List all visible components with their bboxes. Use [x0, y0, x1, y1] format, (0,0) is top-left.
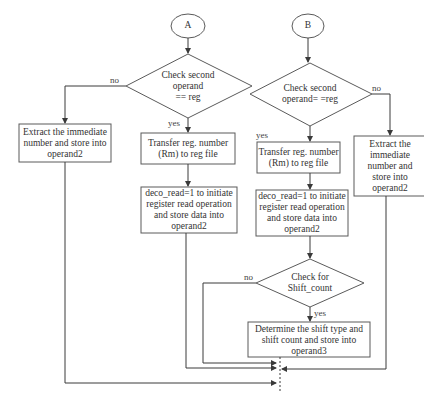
shift-decision-label: Check for Shift_count — [270, 272, 350, 294]
decision-b-label: Check second operand= =reg — [270, 83, 350, 105]
start-a-label: A — [178, 20, 198, 31]
decision-a-label: Check second operand == reg — [146, 70, 230, 103]
decision-b-yes-label: yes — [256, 130, 268, 140]
shift-box-label: Determine the shift type and shift count… — [248, 324, 370, 357]
decision-b-no-label: no — [372, 83, 381, 93]
decision-a-no-label: no — [110, 75, 119, 85]
deco-b-label: deco_read=1 to initiate register read op… — [256, 191, 348, 235]
decision-a-yes-label: yes — [168, 118, 180, 128]
shift-decision-yes-label: yes — [314, 308, 326, 318]
shift-decision-no-label: no — [244, 272, 253, 282]
start-b-label: B — [298, 20, 318, 31]
deco-a-label: deco_read=1 to initiate register read op… — [141, 188, 237, 232]
transfer-a-label: Transfer reg. number (Rm) to reg file — [141, 138, 235, 160]
flowchart-canvas: A Check second operand == reg no yes Ext… — [0, 0, 424, 400]
immediate-a-label: Extract the immediate number and store i… — [19, 127, 111, 160]
immediate-b-label: Extract the immediate number and store i… — [354, 139, 424, 194]
transfer-b-label: Transfer reg. number (Rm) to reg file — [257, 147, 340, 169]
